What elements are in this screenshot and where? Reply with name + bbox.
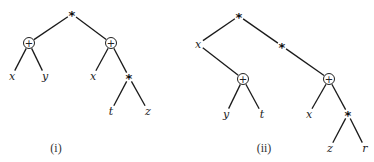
tree-diagram: *++xyx*tz(i)*x*+yt+x*zr(ii): [0, 0, 374, 162]
multiply-node-icon: *: [126, 71, 133, 86]
multiply-node-icon: *: [236, 10, 243, 25]
leaf-variable-x: x: [195, 38, 202, 51]
multiply-node-icon: *: [279, 40, 286, 55]
tree-edge: [286, 49, 324, 76]
tree-edge: [312, 84, 326, 109]
leaf-variable-y: y: [41, 70, 49, 83]
leaf-variable-r: r: [362, 142, 368, 155]
tree-edge: [32, 48, 43, 70]
tree-edge: [114, 48, 127, 72]
tree-caption: (ii): [257, 141, 272, 155]
tree-edge: [76, 17, 106, 39]
tree-edge: [350, 118, 362, 142]
tree-edge: [96, 48, 108, 70]
tree-2: *x*+yt+x*zr(ii): [195, 10, 368, 155]
plus-sign: +: [25, 38, 33, 49]
leaf-variable-z: z: [326, 142, 333, 155]
tree-edge: [34, 17, 68, 40]
tree-1: *++xyx*tz(i): [9, 8, 151, 155]
plus-sign: +: [325, 74, 333, 85]
tree-edge: [203, 19, 235, 41]
leaf-variable-t: t: [109, 105, 114, 118]
tree-edge: [332, 84, 346, 109]
plus-node-icon: +: [24, 38, 35, 49]
leaf-variable-y: y: [222, 108, 230, 121]
plus-sign: +: [239, 74, 247, 85]
plus-node-icon: +: [238, 74, 249, 85]
tree-caption: (i): [50, 141, 61, 155]
leaf-variable-x: x: [9, 70, 16, 83]
plus-node-icon: +: [106, 38, 117, 49]
plus-sign: +: [107, 38, 115, 49]
tree-edge: [131, 81, 145, 105]
leaf-variable-z: z: [144, 105, 151, 118]
multiply-node-icon: *: [345, 108, 352, 123]
tree-edge: [15, 48, 27, 70]
tree-edge: [243, 19, 278, 43]
tree-edge: [203, 48, 239, 76]
plus-node-icon: +: [324, 74, 335, 85]
leaf-variable-x: x: [306, 108, 313, 121]
leaf-variable-x: x: [90, 70, 97, 83]
tree-edge: [229, 84, 241, 108]
expression-trees-figure: *++xyx*tz(i)*x*+yt+x*zr(ii): [0, 0, 374, 162]
multiply-node-icon: *: [69, 8, 76, 23]
leaf-variable-t: t: [260, 108, 265, 121]
tree-edge: [246, 84, 259, 108]
